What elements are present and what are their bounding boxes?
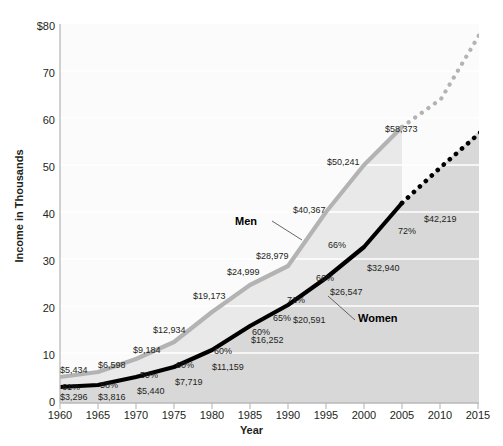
x-tick-label: 2000 [347, 409, 381, 421]
x-tick-label: 1975 [157, 409, 191, 421]
data-label: $7,719 [175, 377, 203, 387]
ratio-label: 60% [176, 360, 194, 370]
income-gap-line-chart: $80 70 60 50 40 30 20 10 0 1960 1965 197… [0, 0, 503, 446]
data-label: $32,940 [367, 263, 400, 273]
data-label: $24,999 [227, 267, 260, 277]
ratio-label: 66% [328, 240, 346, 250]
data-label: $26,547 [330, 287, 363, 297]
data-label: $58,373 [385, 124, 418, 134]
y-tick-label: 60 [10, 114, 55, 126]
data-label: $40,367 [293, 205, 326, 215]
x-tick-label: 1995 [309, 409, 343, 421]
data-label: $3,816 [98, 392, 126, 402]
x-tick-label: 2005 [385, 409, 419, 421]
ratio-label: 66% [316, 273, 334, 283]
data-label: $6,598 [98, 360, 126, 370]
ratio-label: 59% [140, 370, 158, 380]
data-label: $50,241 [327, 157, 360, 167]
x-tick-label: 2015 [461, 409, 495, 421]
x-tick-label: 1965 [81, 409, 115, 421]
y-tick-label: 0 [10, 396, 55, 408]
x-tick-label: 1960 [43, 409, 77, 421]
ratio-label: 60% [214, 346, 232, 356]
series-label-women: Women [358, 312, 398, 324]
ratio-label: 72% [398, 226, 416, 236]
y-tick-label: 20 [10, 302, 55, 314]
ratio-label: 71% [287, 295, 305, 305]
x-tick-label: 1970 [119, 409, 153, 421]
ratio-label: 65% [273, 313, 291, 323]
data-label: $19,173 [193, 291, 226, 301]
x-tick-label: 1990 [271, 409, 305, 421]
y-tick-label: 70 [10, 67, 55, 79]
data-label: $5,440 [137, 386, 165, 396]
x-tick-label: 2010 [423, 409, 457, 421]
data-label: $42,219 [424, 214, 457, 224]
data-label: $20,591 [293, 315, 326, 325]
data-label: $12,934 [153, 325, 186, 335]
ratio-label: 60% [252, 327, 270, 337]
data-label: $3,296 [60, 392, 88, 402]
y-tick-label: 10 [10, 349, 55, 361]
ratio-label: 61% [62, 382, 80, 392]
y-tick-label: $80 [10, 20, 55, 32]
x-axis-title: Year [0, 424, 503, 436]
data-label: $28,979 [256, 251, 289, 261]
ratio-label: 58% [100, 380, 118, 390]
data-label: $11,159 [212, 362, 244, 372]
x-tick-label: 1980 [195, 409, 229, 421]
data-label: $9,184 [133, 345, 161, 355]
data-label: $5,434 [60, 365, 88, 375]
y-axis-title: Income in Thousands [13, 146, 25, 266]
series-label-men: Men [235, 215, 257, 227]
x-tick-label: 1985 [233, 409, 267, 421]
